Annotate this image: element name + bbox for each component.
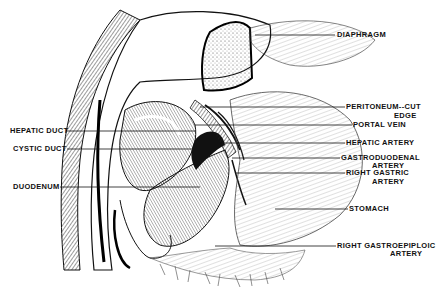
anatomy-figure: DIAPHRAGM PERITONEUM--CUT EDGE PORTAL VE… bbox=[0, 0, 438, 302]
label-right-gastric-line2: ARTERY bbox=[372, 178, 404, 186]
diaphragm-cut bbox=[202, 22, 252, 90]
label-peritoneum-line2: EDGE bbox=[394, 112, 416, 120]
label-right-gastric-artery: RIGHT GASTRIC bbox=[346, 169, 409, 177]
label-hepatic-duct: HEPATIC DUCT bbox=[10, 127, 68, 135]
label-peritoneum-cut-edge: PERITONEUM--CUT bbox=[346, 103, 421, 111]
label-diaphragm: DIAPHRAGM bbox=[337, 31, 386, 39]
label-cystic-duct: CYSTIC DUCT bbox=[13, 145, 67, 153]
stomach bbox=[230, 92, 362, 246]
label-duodenum: DUODENUM bbox=[13, 183, 60, 191]
label-portal-vein: PORTAL VEIN bbox=[353, 121, 406, 129]
label-right-gastroepiploic-line2: ARTERY bbox=[390, 250, 422, 258]
omentum bbox=[150, 248, 305, 280]
label-hepatic-artery: HEPATIC ARTERY bbox=[346, 139, 414, 147]
label-stomach: STOMACH bbox=[349, 205, 389, 213]
